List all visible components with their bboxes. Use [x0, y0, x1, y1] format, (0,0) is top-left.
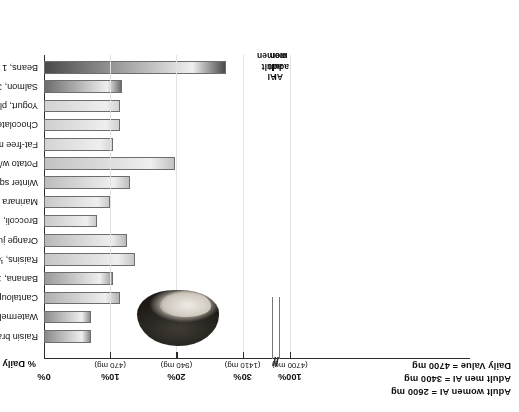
- tick-percent: 30%: [233, 372, 251, 382]
- axis-tick: [176, 352, 177, 359]
- note-adult-men-ai: Adult men AI = 3400 mg: [296, 372, 511, 385]
- bar-label: Watermelon, 1 wedge: [0, 311, 38, 324]
- tick-percent: 0%: [37, 372, 50, 382]
- bar-label: Beans, 1 cup: [0, 61, 38, 74]
- axis-tick-label: 0%: [37, 371, 50, 382]
- gridline: [110, 55, 111, 352]
- tick-percent: 10%: [101, 372, 119, 382]
- bar-label: Fat-free milk, 1 cup: [0, 138, 38, 151]
- ai-line3: men: [268, 51, 289, 61]
- bar-row: Banana, 1 medium: [44, 269, 318, 287]
- bar-label: Winter squash, baked, 1 cup: [0, 177, 38, 190]
- bar-row: Broccoli, 1 cup: [44, 212, 318, 230]
- note-adult-women-ai: Adult women AI = 2600 mg: [296, 385, 511, 398]
- bar[interactable]: [44, 292, 120, 305]
- bar[interactable]: [44, 119, 120, 132]
- bar[interactable]: [44, 272, 114, 285]
- bar-label: Cantaloupe, 1 cup: [0, 292, 38, 305]
- bar[interactable]: [44, 138, 114, 151]
- axis-tick: [110, 352, 111, 359]
- axis-tick-label: 20%(940 mg): [161, 360, 193, 382]
- bar[interactable]: [44, 253, 135, 266]
- axis-tick: [243, 352, 244, 359]
- bar-label: Broccoli, 1 cup: [0, 215, 38, 228]
- bar-label: Raisin bran cereal, 1 cup: [0, 330, 38, 343]
- note-daily-value: Daily Value = 4700 mg: [296, 358, 511, 371]
- reference-label-ai-men: AIadultmen: [268, 51, 289, 82]
- bar[interactable]: [44, 215, 97, 228]
- bar-label: Orange juice, fresh squeezed, 1 cup: [0, 234, 38, 247]
- reference-line-ai-men: [279, 297, 280, 359]
- potassium-daily-value-chart: Adult women AI = 2600 mg Adult men AI = …: [0, 0, 519, 412]
- bar[interactable]: [44, 61, 226, 74]
- bar-label: Potato w/skin, 1 medium: [0, 157, 38, 170]
- bar-label: Marinara sauce, ½ cup: [0, 196, 38, 209]
- bar[interactable]: [44, 330, 91, 343]
- bar[interactable]: [44, 196, 110, 209]
- bar[interactable]: [44, 234, 127, 247]
- axis-tick: [44, 352, 45, 359]
- axis-tick-label: 30%(1410 mg): [225, 360, 261, 382]
- bar[interactable]: [44, 100, 120, 113]
- bar-label: Yogurt, plain, 1 cup: [0, 100, 38, 113]
- rotated-figure-container: Adult women AI = 2600 mg Adult men AI = …: [0, 0, 519, 412]
- gridline: [290, 55, 291, 352]
- tick-mg: (940 mg): [161, 360, 193, 371]
- axis-tick: [290, 352, 291, 359]
- bar-label: Salmon, 3 oz: [0, 81, 38, 94]
- tick-percent: 100%: [278, 372, 302, 382]
- bar-label: Chocolate milk, 1 cup: [0, 119, 38, 132]
- bar-label: Raisins, ½ cup: [0, 253, 38, 266]
- bar-row: Orange juice, fresh squeezed, 1 cup: [44, 231, 318, 249]
- tick-percent: 20%: [167, 372, 185, 382]
- bar-label: Banana, 1 medium: [0, 273, 38, 286]
- ai-abbr: AI: [268, 72, 289, 82]
- bar-row: Potato w/skin, 1 medium: [44, 154, 318, 172]
- bar-row: Winter squash, baked, 1 cup: [44, 173, 318, 191]
- axis-title: % Daily Value: [0, 359, 36, 370]
- axis-rule: [44, 358, 470, 359]
- bar-row: Fat-free milk, 1 cup: [44, 135, 318, 153]
- axis-tick-label: 100%(4700 mg): [272, 360, 308, 382]
- reference-line-ai-women: [272, 297, 273, 359]
- tick-mg: (4700 mg): [272, 360, 308, 371]
- legend-notes: Adult women AI = 2600 mg Adult men AI = …: [296, 358, 511, 398]
- bar-row: Yogurt, plain, 1 cup: [44, 96, 318, 114]
- gridline: [243, 55, 244, 352]
- bar[interactable]: [44, 176, 130, 189]
- bar[interactable]: [44, 311, 91, 324]
- tick-mg: (1410 mg): [225, 360, 261, 371]
- bar-row: Raisins, ½ cup: [44, 250, 318, 268]
- tick-mg: (470 mg): [94, 360, 126, 371]
- bar-row: Marinara sauce, ½ cup: [44, 192, 318, 210]
- ai-line2: adult: [268, 61, 289, 71]
- bar-row: Chocolate milk, 1 cup: [44, 116, 318, 134]
- axis-tick-label: 10%(470 mg): [94, 360, 126, 382]
